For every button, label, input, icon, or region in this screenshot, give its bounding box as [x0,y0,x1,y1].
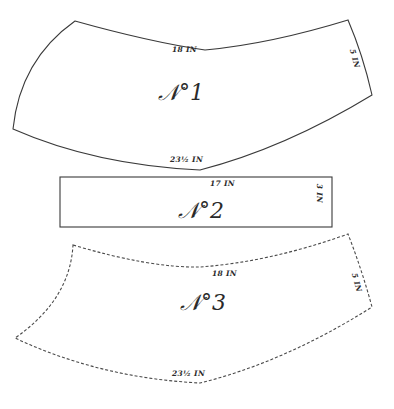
piece-1-top-measurement: 18 IN [172,45,197,54]
piece-2-side-measurement: 3 IN [315,184,324,203]
piece-1-title: 𝒩°1 [158,80,204,105]
piece-3-title: 𝒩°3 [180,290,226,315]
piece-2-title: 𝒩°2 [178,198,224,223]
piece-3-bottom-measurement: 23½ IN [172,369,205,378]
piece-1-bottom-measurement: 23½ IN [170,155,203,164]
piece-2-top-measurement: 17 IN [210,179,235,188]
piece-3-top-measurement: 18 IN [212,269,237,278]
